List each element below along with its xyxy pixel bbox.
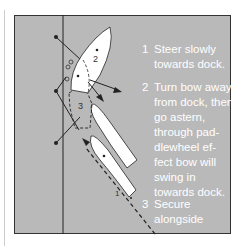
boat-2-label: 2	[93, 54, 98, 64]
boat-1-label: 1	[115, 189, 120, 198]
path-arrow-icon	[82, 138, 90, 146]
boat-2-hull	[71, 27, 111, 93]
boat-3-label: 3	[78, 101, 83, 111]
swing-arrow-icon	[96, 94, 104, 102]
approach-path	[86, 148, 155, 234]
